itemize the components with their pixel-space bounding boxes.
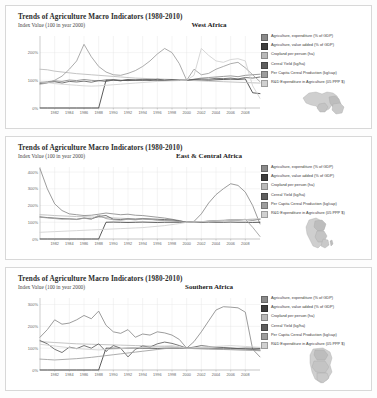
southern-africa-map	[299, 346, 361, 386]
legend-swatch-icon	[261, 62, 268, 69]
legend-swatch-icon	[261, 71, 268, 78]
legend-item: Agriculture, value added (% of GDP)	[261, 173, 365, 181]
svg-text:1996: 1996	[153, 373, 161, 377]
svg-text:300%: 300%	[28, 302, 39, 307]
region-label: Southern Africa	[154, 283, 264, 291]
legend-item: Per Capita Cereal Production (kg/cap)	[261, 201, 365, 209]
plot-area: 0%100%200%198219841986198819901992199419…	[18, 32, 266, 124]
legend-label: Cropland per person (ha)	[271, 51, 314, 57]
svg-text:2000: 2000	[182, 242, 190, 246]
legend-swatch-icon	[261, 183, 268, 190]
legend-item: Cropland per person (ha)	[261, 51, 365, 59]
legend-item: Per Capita Cereal Production (kg/cap)	[261, 332, 365, 340]
legend-swatch-icon	[261, 211, 268, 218]
east-central-africa-map	[299, 215, 361, 255]
svg-text:2002: 2002	[197, 373, 205, 377]
legend-item: Agriculture, value added (% of GDP)	[261, 42, 365, 50]
legend-label: Agriculture, expenditure (% of GDP)	[271, 164, 333, 170]
legend-label: Agriculture, value added (% of GDP)	[271, 173, 334, 179]
svg-text:1988: 1988	[94, 111, 102, 115]
line-chart: 0%100%200%198219841986198819901992199419…	[18, 32, 266, 124]
legend: Agriculture, expenditure (% of GDP)Agric…	[261, 33, 365, 88]
svg-text:1984: 1984	[65, 242, 73, 246]
svg-text:2002: 2002	[197, 242, 205, 246]
legend-swatch-icon	[261, 174, 268, 181]
svg-text:1998: 1998	[168, 242, 176, 246]
legend-label: Cereal Yield (kg/ha)	[271, 61, 305, 67]
page-title: Trends of Agriculture Macro Indicators (…	[18, 275, 182, 283]
region-label: East & Central Africa	[154, 152, 264, 160]
svg-text:2006: 2006	[226, 111, 234, 115]
svg-text:2008: 2008	[241, 373, 249, 377]
legend-swatch-icon	[261, 314, 268, 321]
svg-text:1986: 1986	[80, 111, 88, 115]
legend-item: Agriculture, expenditure (% of GDP)	[261, 164, 365, 172]
svg-text:0%: 0%	[32, 106, 38, 111]
svg-text:1994: 1994	[138, 242, 146, 246]
svg-text:400%: 400%	[28, 170, 39, 175]
legend-item: Agriculture, expenditure (% of GDP)	[261, 33, 365, 41]
region-label: West Africa	[154, 21, 264, 29]
svg-text:1996: 1996	[153, 111, 161, 115]
west-africa-map	[299, 84, 361, 124]
svg-text:200%: 200%	[28, 203, 39, 208]
legend-swatch-icon	[261, 305, 268, 312]
svg-text:1982: 1982	[50, 373, 58, 377]
legend-swatch-icon	[261, 52, 268, 59]
svg-text:1990: 1990	[109, 242, 117, 246]
legend-label: Agriculture, expenditure (% of GDP)	[271, 295, 333, 301]
chart-panel-east-central-africa: Trends of Agriculture Macro Indicators (…	[5, 136, 372, 260]
legend-label: Cropland per person (ha)	[271, 313, 314, 319]
legend: Agriculture, expenditure (% of GDP)Agric…	[261, 164, 365, 219]
svg-text:200%: 200%	[28, 324, 39, 329]
legend-swatch-icon	[261, 296, 268, 303]
svg-text:1988: 1988	[94, 373, 102, 377]
legend-swatch-icon	[261, 80, 268, 87]
svg-text:100%: 100%	[28, 78, 39, 83]
legend-swatch-icon	[261, 193, 268, 200]
svg-text:2008: 2008	[241, 111, 249, 115]
svg-text:2004: 2004	[212, 111, 220, 115]
line-chart: 0%100%200%300%400%1982198419861988199019…	[18, 163, 266, 255]
svg-text:1990: 1990	[109, 373, 117, 377]
legend-label: Cereal Yield (kg/ha)	[271, 323, 305, 329]
legend-item: Cereal Yield (kg/ha)	[261, 323, 365, 331]
svg-text:0%: 0%	[32, 237, 38, 242]
svg-text:1984: 1984	[65, 111, 73, 115]
legend-item: Per Capita Cereal Production (kg/cap)	[261, 70, 365, 78]
page-title: Trends of Agriculture Macro Indicators (…	[18, 13, 182, 21]
chart-subtitle: Index Value (100 in year 2000)	[18, 284, 85, 290]
svg-text:1998: 1998	[168, 111, 176, 115]
legend-swatch-icon	[261, 333, 268, 340]
plot-area: 0%100%200%300%19821984198619881990199219…	[18, 294, 266, 386]
legend-item: Cereal Yield (kg/ha)	[261, 61, 365, 69]
legend-swatch-icon	[261, 34, 268, 41]
page-title: Trends of Agriculture Macro Indicators (…	[18, 144, 182, 152]
svg-text:1998: 1998	[168, 373, 176, 377]
plot-area: 0%100%200%300%400%1982198419861988199019…	[18, 163, 266, 255]
svg-text:300%: 300%	[28, 186, 39, 191]
legend-item: Cropland per person (ha)	[261, 313, 365, 321]
svg-text:200%: 200%	[28, 50, 39, 55]
svg-text:1992: 1992	[124, 242, 132, 246]
svg-text:2006: 2006	[226, 242, 234, 246]
svg-text:1984: 1984	[65, 373, 73, 377]
legend-label: Agriculture, expenditure (% of GDP)	[271, 33, 333, 39]
svg-text:2000: 2000	[182, 111, 190, 115]
svg-text:1986: 1986	[80, 373, 88, 377]
svg-text:2006: 2006	[226, 373, 234, 377]
line-chart: 0%100%200%300%19821984198619881990199219…	[18, 294, 266, 386]
chart-panel-southern-africa: Trends of Agriculture Macro Indicators (…	[5, 267, 372, 391]
legend-label: Per Capita Cereal Production (kg/cap)	[271, 201, 337, 207]
legend: Agriculture, expenditure (% of GDP)Agric…	[261, 295, 365, 350]
svg-text:2004: 2004	[212, 242, 220, 246]
legend-swatch-icon	[261, 43, 268, 50]
svg-text:1982: 1982	[50, 242, 58, 246]
legend-item: Cereal Yield (kg/ha)	[261, 192, 365, 200]
chart-subtitle: Index Value (100 in year 2000)	[18, 153, 85, 159]
svg-text:1990: 1990	[109, 111, 117, 115]
figure-sheet: Trends of Agriculture Macro Indicators (…	[0, 0, 377, 398]
svg-text:1994: 1994	[138, 373, 146, 377]
legend-label: Cropland per person (ha)	[271, 182, 314, 188]
svg-text:100%: 100%	[28, 346, 39, 351]
